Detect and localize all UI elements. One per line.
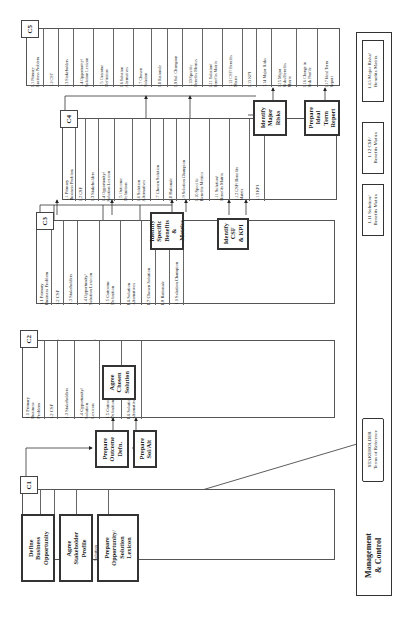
process-prepare-opportunity-lexicon: Prepare Opportunity/ Solution Lexicon — [97, 514, 139, 582]
context-tag-c5: C5 — [21, 20, 39, 38]
stack-cell: 1.9 Sol. Champion — [168, 29, 183, 87]
stack-c5: 1.1 Primary Business Problem 1.2 CSF 1.3… — [26, 28, 340, 86]
stack-cell: 1.7 Chosen Solution — [151, 119, 164, 201]
process-identify-major-risks: Identify Major Risks — [253, 100, 287, 136]
stack-cell: 1.14 Major Risks — [257, 29, 272, 87]
stack-cell: 1.13 KPI — [243, 29, 257, 87]
stack-cell: 1.8 Rationale — [152, 29, 168, 87]
stack-cell: 1.17 Ideal Term Report — [318, 29, 340, 87]
stack-cell: 1.3 Stakeholders — [59, 29, 74, 87]
context-tag-c3: C3 — [36, 212, 54, 230]
doc-solution-benefits-matrix: 1.11 Solution/ Benefits Matrix — [362, 184, 384, 236]
stack-cell: 1.3 Stakeholders — [86, 119, 99, 201]
stack-cell: 1.6 Solution Alternatives — [121, 221, 142, 305]
process-agree-chosen-solution: Agree Chosen Solution — [102, 365, 136, 400]
stack-cell: 1.2 CSF — [52, 221, 64, 305]
management-control-panel — [356, 32, 392, 596]
stack-cell: 1.6 Solution Alternatives — [133, 119, 151, 201]
stack-cell: 1.1 Primary Business Problem — [23, 341, 45, 419]
stack-cell: 1.2 CSF — [44, 29, 59, 87]
stack-cell: 1.1 Primary Business Problem — [63, 119, 76, 201]
stack-cell: 1.6 Solution Alternatives — [114, 29, 134, 87]
stack-c2: 1.1 Primary Business Problem 1.2 CSF 1.3… — [22, 340, 335, 418]
stack-cell: 1.3 Stakeholders — [64, 221, 78, 305]
stack-cell: 1.8 Rationale — [164, 119, 177, 201]
context-tag-c2: C2 — [20, 330, 38, 348]
stack-c3: 1.1 Primary Business Problem 1.2 CSF 1.3… — [36, 220, 335, 304]
context-tag-c4: C4 — [60, 110, 78, 128]
stack-cell: 1.4 Opportunity/ Solution Lexicon — [99, 119, 115, 201]
stack-cell: 1.5 Outcome Definition — [100, 221, 121, 305]
stack-cell: 1.4 Opportunity/ Solution Lexicon — [74, 29, 94, 87]
doc-major-risks-benefits-matrix: 1.15 Major Risks/ Benefits Matrix — [362, 40, 384, 102]
stack-cell: 1.4 Opportunity/ Solution Lexicon — [78, 221, 100, 305]
process-define-business-opportunity: Define Business Opportunity — [21, 514, 55, 582]
stack-cell: 1.3 Stakeholders — [58, 341, 75, 419]
stack-cell: 1.4 Opportunity/ Solution Lexicon — [75, 341, 100, 419]
stack-cell: 1.7 Chosen Solution — [134, 29, 152, 87]
stack-cell: 1.5 Outcome Definition — [94, 29, 114, 87]
stack-cell: 1.2 CSF — [76, 119, 86, 201]
stack-cell: 1.10 Specific Benefits Metrics — [183, 29, 203, 87]
management-control-title: Management & Control — [360, 520, 388, 590]
stack-cell: 1.16 Change in Risk Profile — [297, 29, 318, 87]
process-agree-stakeholder-profile: Agree Stakeholder Profile — [59, 514, 93, 582]
process-prepare-ideal-term-report: Prepare Ideal Term Report — [304, 100, 340, 136]
stack-cell: 1.5 Outcome Definition — [115, 119, 133, 201]
process-prepare-outcome-defn: Prepare Outcome Defn. — [95, 430, 129, 468]
doc-csf-benefits-matrix: 1.12 CSF/ Benefits Matrix — [362, 122, 384, 174]
stack-cell: 1.12 CSF/ Benefits Matrix — [223, 29, 243, 87]
process-identify-specific-benefits: Identify Specific Benefits & Metrics — [150, 212, 184, 250]
stack-cell: 1.11 Solution/ Benefits Matrix — [203, 29, 223, 87]
context-tag-c1: C1 — [20, 476, 38, 494]
doc-stakeholder-terms-of-reference: STAKEHOLDER Terms of Reference — [362, 418, 384, 482]
stack-cell: 1.9 Solution Champion — [177, 119, 190, 201]
process-prepare-sol-alt: Prepare Sol/Alt — [133, 430, 157, 468]
process-identify-csf-kpi: Identify CSF & KPI — [217, 218, 249, 250]
stack-cell: 1.10 Specific Benefits Metrics — [190, 119, 210, 201]
stack-cell: 1.15 Major Risks/Benefits Matrix — [272, 29, 297, 87]
stack-cell: 1.12 CSF/ Benefits Matrix — [230, 119, 250, 201]
stack-c4: 1.1 Primary Business Problem 1.2 CSF 1.3… — [62, 118, 337, 200]
stack-cell: 1.1 Primary Business Problem — [37, 221, 52, 305]
stack-cell: 1.2 CSF — [45, 341, 58, 419]
stack-cell: 1.11 Solution/ Benefits Matrix — [210, 119, 230, 201]
